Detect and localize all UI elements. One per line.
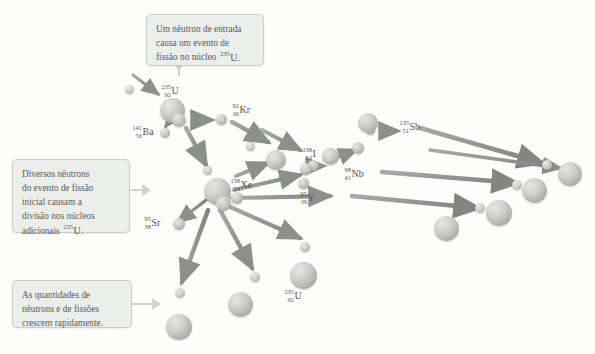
- iso-y95-numbers: 95 39: [296, 192, 307, 204]
- neutron-gen3-right-2: [512, 180, 522, 190]
- iso-xe138: 138 54 Xe: [229, 179, 252, 191]
- atomic-number: 53: [306, 155, 312, 161]
- atomic-number: 39: [301, 199, 307, 205]
- callout-top-isotope: 235 U.: [219, 52, 240, 64]
- iso-kr92: 92 36 Kr: [228, 104, 250, 116]
- nucleus-y95: [298, 178, 309, 189]
- callout-mid-line-3: inicial causam a: [22, 195, 120, 209]
- iso-nb98: 98 41 Nb: [340, 168, 364, 180]
- incoming-neutron: [125, 85, 134, 94]
- neutron-gen3-lower-mid: [250, 272, 260, 282]
- callout-rapid-growth: As quantidades de nêutrons e de fissões …: [12, 280, 132, 328]
- iso-sr95: 95 38 Sr: [140, 217, 160, 229]
- iso-kr92-numbers: 92 36: [228, 104, 239, 116]
- element-symbol: U.: [74, 225, 84, 236]
- element-symbol: U: [172, 85, 179, 96]
- nucleus-u235-primary-lobe: [172, 113, 186, 127]
- atomic-number: 38: [145, 224, 151, 230]
- iso-sr95-numbers: 95 38: [140, 217, 151, 229]
- nucleus-nb98: [352, 142, 364, 154]
- mass-number: 95: [145, 216, 151, 222]
- nucleus-i138-partner: [322, 148, 339, 165]
- atomic-number: 92: [165, 92, 171, 98]
- neutron-gen3-lower-left: [175, 288, 185, 298]
- nucleus-u235-gen2-lobe: [216, 196, 231, 211]
- atomic-number: 51: [403, 128, 409, 134]
- callout-tail-bottom-arrow: [152, 298, 161, 310]
- iso-u235-bottom-numbers: 235 92: [283, 290, 294, 302]
- neutron-gen3-mid: [300, 242, 310, 252]
- nucleus-ba141: [160, 128, 170, 138]
- iso-i138-numbers: 138 53: [301, 148, 312, 160]
- iso-nb98-numbers: 98 41: [340, 168, 351, 180]
- element-symbol: U.: [230, 52, 240, 63]
- iso-ba141: 141 56 Ba: [131, 126, 154, 138]
- mass-number: 135: [399, 120, 409, 126]
- iso-xe138-numbers: 138 54: [229, 179, 240, 191]
- nucleus-gen3-right-4: [434, 216, 459, 241]
- mass-number: 235: [63, 224, 73, 230]
- nucleus-gen3-right-3: [486, 200, 512, 226]
- nucleus-y95-upper: [300, 163, 312, 175]
- nucleus-gen3-mid: [290, 262, 317, 289]
- nucleus-gen3-right-2: [522, 178, 547, 203]
- callout-top-line-2: causa um evento de: [156, 36, 254, 50]
- callout-several-neutrons: Diversos nêutrons do evento de fissão in…: [12, 159, 130, 233]
- nucleus-gen3-lower-left: [166, 314, 192, 340]
- callout-bottom-line-3: crescem rapidamente.: [22, 316, 122, 330]
- callout-tail-middle-arrow: [142, 184, 151, 196]
- callout-bottom-line-1: As quantidades de: [22, 288, 122, 302]
- element-symbol: Nb: [352, 168, 364, 179]
- atomic-number: 92: [288, 297, 294, 303]
- element-symbol: U: [295, 290, 302, 301]
- neutron-gen2-upper: [246, 142, 255, 151]
- iso-i138: 138 53 I: [301, 148, 316, 160]
- mass-number: 235: [161, 84, 171, 90]
- callout-bottom-line-2: nêutrons e de fissões: [22, 302, 122, 316]
- iso-u235-top-numbers: 235 92: [160, 85, 171, 97]
- nucleus-gen3-a: [358, 113, 378, 133]
- callout-mid-line-4: divisão nos núcleos: [22, 209, 120, 223]
- nucleus-gen2-upper: [266, 150, 286, 170]
- element-symbol: Y: [308, 192, 315, 203]
- iso-y95: 95 39 Y: [296, 192, 315, 204]
- callout-incoming-neutron: Um nêutron de entrada causa um evento de…: [146, 14, 264, 66]
- atomic-number: 54: [234, 186, 240, 192]
- neutron-gen3-right-3: [475, 203, 485, 213]
- mass-number: 98: [345, 167, 351, 173]
- neutron-gen1-down: [203, 166, 212, 175]
- element-symbol: Sr: [152, 217, 161, 228]
- nucleus-xe138: [231, 192, 243, 204]
- callout-mid-line-5-text: adicionais: [22, 226, 60, 236]
- mass-number: 95: [301, 191, 307, 197]
- mass-number: 138: [302, 147, 312, 153]
- fission-chain-reaction-diagram: Um nêutron de entrada causa um evento de…: [0, 0, 595, 354]
- iso-sb135-numbers: 135 51: [398, 121, 409, 133]
- neutron-gen3-right-1: [542, 160, 552, 170]
- nucleus-sr95: [173, 218, 185, 230]
- mass-number: 235: [220, 51, 230, 57]
- mass-number: 235: [284, 289, 294, 295]
- callout-mid-line-2: do evento de fissão: [22, 181, 120, 195]
- callout-mid-line-5: adicionais 235 U.: [22, 224, 120, 238]
- element-symbol: Ba: [143, 126, 154, 137]
- element-symbol: I: [313, 148, 316, 159]
- mass-number: 138: [230, 178, 240, 184]
- nucleus-gen3-lower-mid: [228, 292, 253, 317]
- callout-top-isotope-numbers: 235: [219, 52, 230, 64]
- iso-ba141-numbers: 141 56: [131, 126, 142, 138]
- nucleus-kr92: [216, 114, 227, 125]
- iso-sb135: 135 51 Sb: [398, 121, 420, 133]
- callout-top-line-3: fissão no núcleo 235 U.: [156, 50, 254, 64]
- atomic-number: 36: [233, 111, 239, 117]
- callout-mid-isotope-numbers: 235: [62, 225, 73, 237]
- element-symbol: Sb: [410, 121, 421, 132]
- mass-number: 141: [132, 125, 142, 131]
- callout-top-line-3-text: fissão no núcleo: [156, 52, 216, 62]
- iso-u235-top: 235 92 U: [160, 85, 179, 97]
- element-symbol: Kr: [240, 104, 251, 115]
- iso-u235-bottom: 235 92 U: [283, 290, 302, 302]
- atomic-number: 56: [136, 133, 142, 139]
- nucleus-gen3-right-1: [558, 162, 582, 186]
- callout-mid-line-1: Diversos nêutrons: [22, 167, 120, 181]
